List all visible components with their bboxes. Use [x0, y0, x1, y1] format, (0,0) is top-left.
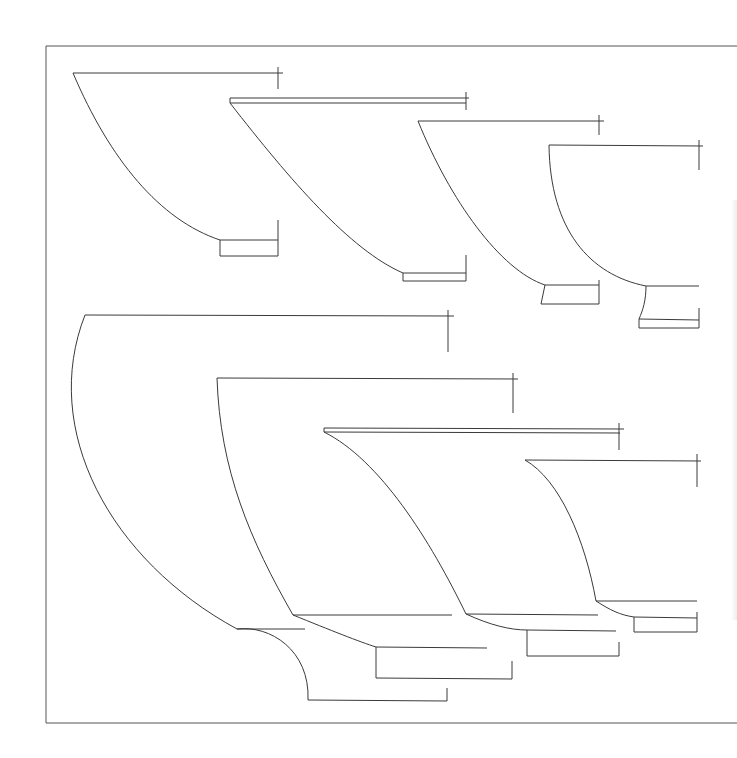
profile-line	[541, 285, 599, 304]
profile-line	[639, 286, 646, 319]
profile-line	[525, 460, 596, 601]
profile-line	[293, 615, 376, 647]
profile-8	[525, 454, 701, 632]
profile-line	[403, 273, 466, 281]
profile-1	[73, 67, 283, 256]
profile-line	[549, 145, 646, 286]
profile-7	[324, 423, 624, 656]
vessel-profile-drawing	[0, 0, 737, 758]
profile-5	[71, 310, 454, 701]
profile-line	[527, 630, 619, 656]
profile-line	[549, 145, 703, 146]
profile-line	[217, 378, 293, 615]
profile-line	[466, 614, 527, 630]
profiles-group	[71, 67, 703, 701]
profile-line	[418, 121, 545, 285]
profile-line	[230, 103, 403, 273]
profile-line	[634, 617, 697, 632]
profile-line	[466, 614, 598, 615]
profile-2	[230, 92, 469, 281]
profile-line	[634, 617, 697, 618]
profile-line	[71, 315, 237, 629]
profile-line	[85, 315, 454, 316]
frame-border	[46, 46, 737, 723]
profile-3	[418, 115, 604, 304]
profile-line	[376, 647, 487, 648]
profile-line	[525, 460, 701, 461]
profile-line	[324, 432, 466, 614]
profile-line	[376, 647, 512, 679]
drawing-frame	[46, 46, 737, 723]
profile-line	[324, 428, 624, 429]
profile-line	[639, 319, 699, 320]
profile-line	[527, 630, 616, 631]
profile-line	[220, 240, 278, 256]
profile-line	[308, 700, 447, 701]
profile-line	[73, 73, 220, 240]
profile-4	[549, 140, 703, 328]
profile-line	[324, 432, 620, 433]
profile-line	[596, 601, 634, 617]
profile-line	[237, 629, 308, 700]
profile-line	[217, 378, 518, 379]
profile-6	[217, 373, 518, 679]
page-edge-shadow	[731, 200, 737, 620]
